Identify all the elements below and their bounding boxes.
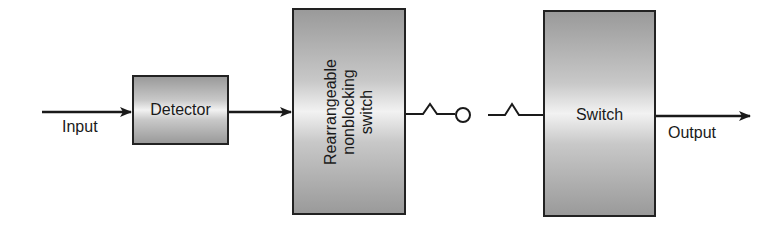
switch-block: Switch [543,10,656,217]
rearrangeable-label: Rearrangeable nonblocking switch [322,59,376,165]
input-label: Input [62,118,98,136]
contact-circle [456,108,470,122]
contact-right [488,104,543,115]
rearrangeable-line-1: Rearrangeable [322,59,340,165]
rearrangeable-line-3: switch [358,59,376,165]
rearrangeable-line-2: nonblocking [340,59,358,165]
rearrangeable-nonblocking-switch-block: Rearrangeable nonblocking switch [292,8,406,215]
detector-block: Detector [132,75,229,145]
switch-label: Switch [545,106,654,124]
contact-left [405,104,455,114]
output-label: Output [668,124,716,142]
detector-label: Detector [134,101,227,119]
